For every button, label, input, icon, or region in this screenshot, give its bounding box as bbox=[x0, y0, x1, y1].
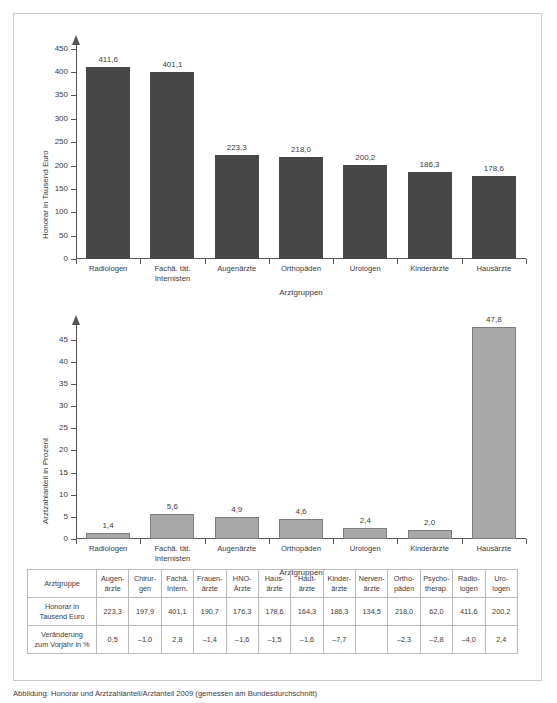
x-tick-honorar-4 bbox=[333, 259, 334, 264]
table-header-row: Arztgruppe Augen-ärzteChirur-genFachä.In… bbox=[28, 570, 518, 598]
y-tick-label-arztzahlanteil-0: 0 bbox=[64, 535, 68, 543]
category-label-arztzahlanteil-1: Fachä. tät.Internisten bbox=[140, 544, 204, 563]
col-header-line: Radio- bbox=[458, 574, 480, 583]
cat-label-line: Radiologen bbox=[89, 264, 127, 273]
cat-label-line: Hausärzte bbox=[477, 264, 512, 273]
col-header-line: ärzte bbox=[299, 584, 315, 593]
bar-value-honorar-4: 200,2 bbox=[335, 153, 395, 162]
cat-label-line: Augenärzte bbox=[217, 544, 256, 553]
cat-label-line: Urologen bbox=[350, 544, 381, 553]
category-label-honorar-1: Fachä. tät.Internisten bbox=[140, 264, 204, 283]
bar-honorar-4 bbox=[343, 165, 387, 259]
table-cell-r1-c2: 2,8 bbox=[161, 626, 193, 654]
y-tick-honorar-5 bbox=[71, 142, 76, 143]
y-tick-arztzahlanteil-2 bbox=[71, 495, 76, 496]
table-row-header-0: Honorar inTausend Euro bbox=[28, 598, 97, 626]
row-header-line: zum Vorjahr in % bbox=[34, 640, 89, 649]
table-cell-r1-c5: –1,5 bbox=[258, 626, 290, 654]
table-cell-r0-c8: 134,5 bbox=[356, 598, 388, 626]
category-label-arztzahlanteil-0: Radiologen bbox=[76, 544, 140, 554]
y-tick-label-arztzahlanteil-5: 25 bbox=[59, 424, 68, 432]
table-col-header-3: Frauen-ärzte bbox=[194, 570, 226, 598]
table-col-header-12: Uro-logen bbox=[485, 570, 518, 598]
category-label-honorar-2: Augenärzte bbox=[205, 264, 269, 274]
y-tick-label-honorar-1: 50 bbox=[59, 232, 68, 240]
x-axis-title-honorar: Arztgruppen bbox=[76, 288, 526, 297]
category-label-honorar-5: Kinderärzte bbox=[397, 264, 461, 274]
category-label-arztzahlanteil-3: Orthopäden bbox=[269, 544, 333, 554]
y-tick-arztzahlanteil-4 bbox=[71, 450, 76, 451]
category-label-honorar-4: Urologen bbox=[333, 264, 397, 274]
cat-label-line: Internisten bbox=[155, 274, 190, 283]
col-header-line: HNO- bbox=[233, 574, 252, 583]
y-tick-label-arztzahlanteil-8: 40 bbox=[59, 358, 68, 366]
cat-label-line: Fachä. tät. bbox=[154, 264, 190, 273]
col-header-line: Ärzte bbox=[234, 584, 251, 593]
cat-label-line: Urologen bbox=[350, 264, 381, 273]
y-tick-label-honorar-3: 150 bbox=[55, 185, 68, 193]
y-tick-label-honorar-5: 250 bbox=[55, 138, 68, 146]
table-cell-r1-c4: –1,6 bbox=[226, 626, 258, 654]
bar-value-honorar-5: 186,3 bbox=[400, 160, 460, 169]
y-tick-honorar-1 bbox=[71, 236, 76, 237]
table-col-header-5: Haus-ärzte bbox=[258, 570, 290, 598]
table-row-header-1: Veränderungzum Vorjahr in % bbox=[28, 626, 97, 654]
y-tick-label-arztzahlanteil-4: 20 bbox=[59, 446, 68, 454]
col-header-line: ärzte bbox=[266, 584, 282, 593]
col-header-line: Haus- bbox=[265, 574, 284, 583]
category-label-honorar-3: Orthopäden bbox=[269, 264, 333, 274]
col-header-line: gen bbox=[139, 584, 151, 593]
table-cell-r1-c12: 2,4 bbox=[485, 626, 518, 654]
table-cell-r0-c3: 190,7 bbox=[194, 598, 226, 626]
y-tick-label-honorar-6: 300 bbox=[55, 115, 68, 123]
y-tick-arztzahlanteil-9 bbox=[71, 340, 76, 341]
table-cell-r1-c9: –2,3 bbox=[388, 626, 420, 654]
chart-arztzahlanteil: 0510152025303540451,4Radiologen5,6Fachä.… bbox=[14, 299, 543, 569]
category-label-arztzahlanteil-4: Urologen bbox=[333, 544, 397, 554]
col-header-line: logen bbox=[460, 584, 478, 593]
table-cell-r0-c11: 411,6 bbox=[453, 598, 485, 626]
category-label-arztzahlanteil-2: Augenärzte bbox=[205, 544, 269, 554]
table-col-header-0: Augen-ärzte bbox=[97, 570, 129, 598]
x-tick-arztzahlanteil-0 bbox=[76, 539, 77, 544]
y-tick-label-arztzahlanteil-9: 45 bbox=[59, 336, 68, 344]
x-tick-honorar-end bbox=[526, 259, 527, 264]
table-col-header-10: Psycho-therap. bbox=[420, 570, 452, 598]
y-tick-label-arztzahlanteil-6: 30 bbox=[59, 402, 68, 410]
x-tick-arztzahlanteil-3 bbox=[269, 539, 270, 544]
category-label-arztzahlanteil-5: Kinderärzte bbox=[397, 544, 461, 554]
bar-value-arztzahlanteil-0: 1,4 bbox=[78, 521, 138, 530]
col-header-line: Ortho- bbox=[394, 574, 415, 583]
bar-honorar-6 bbox=[472, 176, 516, 259]
x-tick-honorar-1 bbox=[140, 259, 141, 264]
bar-honorar-5 bbox=[408, 172, 452, 259]
row-header-line: Tausend Euro bbox=[39, 612, 84, 621]
y-tick-label-arztzahlanteil-3: 15 bbox=[59, 469, 68, 477]
table-cell-r1-c1: –1,0 bbox=[129, 626, 161, 654]
cat-label-line: Augenärzte bbox=[217, 264, 256, 273]
table-cell-r0-c12: 200,2 bbox=[485, 598, 518, 626]
y-tick-label-honorar-0: 0 bbox=[64, 255, 68, 263]
cat-label-line: Hausärzte bbox=[477, 544, 512, 553]
bar-honorar-3 bbox=[279, 157, 323, 259]
col-header-line: ärzte bbox=[331, 584, 347, 593]
y-tick-arztzahlanteil-8 bbox=[71, 362, 76, 363]
col-header-line: Augen- bbox=[101, 574, 125, 583]
bar-value-honorar-2: 223,3 bbox=[207, 143, 267, 152]
x-tick-honorar-3 bbox=[269, 259, 270, 264]
table-col-header-1: Chirur-gen bbox=[129, 570, 161, 598]
table-corner-header: Arztgruppe bbox=[28, 570, 97, 598]
col-header-line: ärzte bbox=[364, 584, 380, 593]
y-axis-line-honorar bbox=[76, 44, 77, 259]
bar-value-honorar-6: 178,6 bbox=[464, 164, 524, 173]
table-col-header-7: Kinder-ärzte bbox=[323, 570, 355, 598]
col-header-line: Fachä. bbox=[166, 574, 188, 583]
chart-honorar: 050100150200250300350400450411,6Radiolog… bbox=[14, 14, 543, 299]
y-tick-arztzahlanteil-1 bbox=[71, 517, 76, 518]
cat-label-line: Internisten bbox=[155, 554, 190, 563]
x-tick-honorar-0 bbox=[76, 259, 77, 264]
col-header-line: logen bbox=[492, 584, 510, 593]
x-tick-arztzahlanteil-2 bbox=[205, 539, 206, 544]
x-tick-arztzahlanteil-1 bbox=[140, 539, 141, 544]
category-label-arztzahlanteil-6: Hausärzte bbox=[462, 544, 526, 554]
